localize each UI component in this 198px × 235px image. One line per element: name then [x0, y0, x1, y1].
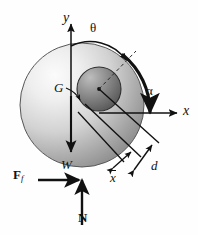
diagram-canvas — [0, 0, 198, 235]
friction-force-symbol: F — [13, 167, 21, 182]
xbar-text: x — [110, 170, 116, 184]
alpha-angular-acceleration-label: α — [146, 84, 153, 97]
normal-force-label: N — [78, 211, 87, 224]
distance-xbar-label: x — [110, 170, 116, 184]
y-axis-label: y — [63, 11, 69, 25]
center-of-gravity-label: G — [54, 81, 63, 94]
dimension-arrow-d — [134, 145, 152, 170]
weight-label: W — [61, 158, 72, 171]
friction-force-label: Ff — [13, 168, 23, 183]
x-axis-label: x — [183, 104, 189, 118]
friction-force-subscript: f — [21, 173, 23, 183]
theta-angle-label: θ — [90, 21, 96, 34]
distance-d-label: d — [151, 159, 158, 172]
physics-diagram-figure: y θ α x G W d x Ff N — [0, 0, 198, 235]
